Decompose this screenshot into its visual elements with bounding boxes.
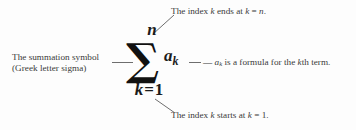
lower-limit-equals: =	[143, 80, 155, 99]
sigma-icon: ∑	[126, 38, 159, 82]
summation-notation-figure: The index k ends at k = n. The summation…	[0, 0, 356, 130]
annotation-lower-limit: The index k starts at k = 1.	[171, 110, 269, 121]
annotation-summation-symbol: The summation symbol (Greek letter sigma…	[12, 52, 99, 74]
summand-a-k: ak	[164, 46, 179, 71]
annotation-lower-limit-equals: =	[252, 110, 262, 120]
annotation-summand-formula: — ak is a formula for the kth term.	[203, 57, 330, 69]
lower-limit-index: k	[135, 80, 144, 99]
annotation-upper-limit-equals: =	[249, 6, 259, 16]
lower-limit-k-equals-1: k=1	[118, 80, 180, 99]
annotation-lower-limit-middle: starts at	[215, 110, 248, 120]
annotation-upper-limit-middle: ends at	[215, 6, 246, 16]
annotation-lower-limit-period: .	[266, 110, 268, 120]
annotation-upper-limit-period: .	[264, 6, 266, 16]
annotation-summand-suffix: th term.	[302, 57, 331, 67]
summand-subscript: k	[173, 54, 179, 68]
annotation-lower-limit-prefix: The index	[171, 110, 211, 120]
lower-limit-value: 1	[155, 80, 164, 99]
annotation-summation-symbol-line2: (Greek letter sigma)	[12, 63, 99, 74]
summand-base: a	[164, 46, 173, 65]
annotation-summand-text: is a formula for the	[222, 57, 297, 67]
annotation-summation-symbol-line1: The summation symbol	[12, 52, 99, 63]
annotation-summand-dash: —	[203, 57, 215, 67]
annotation-upper-limit-prefix: The index	[171, 6, 211, 16]
summation-expression: n ∑ ak k=1	[118, 20, 200, 105]
annotation-upper-limit: The index k ends at k = n.	[171, 6, 266, 17]
